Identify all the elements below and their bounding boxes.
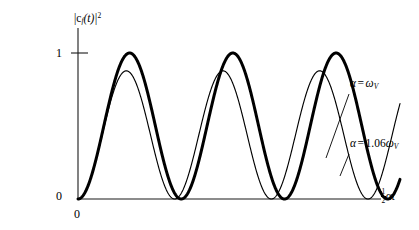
y-axis-label-exponent: 2: [98, 11, 102, 20]
leader-line-lower: [340, 154, 349, 176]
x-axis-label-symbol: αt: [386, 190, 395, 202]
annotation-alpha-equals-1-06-omega-v: α=1.06ωV: [350, 138, 398, 150]
leader-line-upper: [326, 94, 349, 158]
x-origin-label: 0: [74, 208, 80, 220]
y-tick-label-1: 1: [56, 47, 62, 59]
annotation-lower-subscript: V: [394, 142, 399, 151]
plot-canvas: [0, 0, 419, 230]
annotation-upper-omega: ω: [366, 77, 374, 89]
figure-root: |cf(t)|2 1 0 0 12αt α=ωV α=1.06ωV: [0, 0, 419, 230]
y-axis-label: |cf(t)|2: [74, 12, 101, 25]
annotation-lower-omega: ω: [386, 137, 394, 149]
annotation-upper-subscript: V: [374, 82, 379, 91]
y-tick-label-0: 0: [56, 190, 62, 202]
y-axis-label-arg: (t)|: [84, 12, 98, 24]
annotation-lower-equals: =: [356, 137, 366, 149]
annotation-upper-equals: =: [356, 77, 366, 89]
annotation-alpha-equals-omega-v: α=ωV: [350, 78, 378, 90]
curve-alpha-equals-omega-v: [78, 53, 400, 199]
annotation-lower-coefficient: 1.06: [366, 137, 386, 149]
x-axis-label: 12αt: [381, 188, 395, 204]
